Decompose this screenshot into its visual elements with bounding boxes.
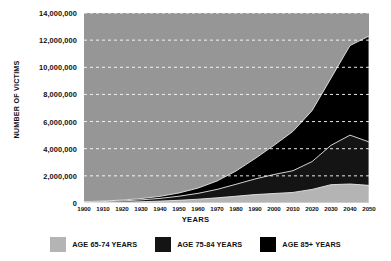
legend-label: AGE 65-74 YEARS — [72, 240, 137, 249]
x-tick-label: 2010 — [286, 205, 299, 212]
legend-label: AGE 75-84 YEARS — [177, 240, 242, 249]
legend-swatch-icon — [50, 237, 66, 252]
x-tick-label: 1980 — [229, 205, 242, 212]
x-tick-label: 1970 — [210, 205, 223, 212]
stacked-area-plot — [84, 13, 369, 203]
x-tick-label: 1910 — [96, 205, 109, 212]
x-tick-label: 2020 — [305, 205, 318, 212]
x-tick-label: 1940 — [153, 205, 166, 212]
x-tick-label: 1990 — [248, 205, 261, 212]
x-tick-label: 2050 — [362, 205, 375, 212]
series-layer — [84, 36, 369, 203]
x-tick-label: 1900 — [77, 205, 90, 212]
x-tick-label: 2040 — [343, 205, 356, 212]
plot-area — [84, 13, 369, 203]
x-tick-label: 2000 — [267, 205, 280, 212]
y-tick-label: 2,000,000 — [43, 171, 77, 180]
legend-label: AGE 85+ YEARS — [282, 240, 341, 249]
x-axis-title: YEARS — [0, 215, 391, 224]
legend-item: AGE 85+ YEARS — [260, 237, 341, 252]
x-tick-label: 1960 — [191, 205, 204, 212]
y-tick-label: 10,000,000 — [39, 63, 77, 72]
x-tick-label: 1920 — [115, 205, 128, 212]
y-tick-label: 14,000,000 — [39, 9, 77, 18]
chart-figure: NUMBER OF VICTIMS 02,000,0004,000,0006,0… — [0, 0, 391, 261]
chart-legend: AGE 65-74 YEARSAGE 75-84 YEARSAGE 85+ YE… — [0, 234, 391, 254]
y-tick-label: 8,000,000 — [43, 90, 77, 99]
y-axis-tick-labels: 02,000,0004,000,0006,000,0008,000,00010,… — [14, 0, 81, 215]
legend-swatch-icon — [260, 237, 276, 252]
x-tick-label: 1930 — [134, 205, 147, 212]
y-tick-label: 12,000,000 — [39, 36, 77, 45]
legend-item: AGE 75-84 YEARS — [155, 237, 242, 252]
y-tick-label: 4,000,000 — [43, 144, 77, 153]
legend-swatch-icon — [155, 237, 171, 252]
y-tick-label: 6,000,000 — [43, 117, 77, 126]
x-tick-label: 2030 — [324, 205, 337, 212]
legend-item: AGE 65-74 YEARS — [50, 237, 137, 252]
x-tick-label: 1950 — [172, 205, 185, 212]
